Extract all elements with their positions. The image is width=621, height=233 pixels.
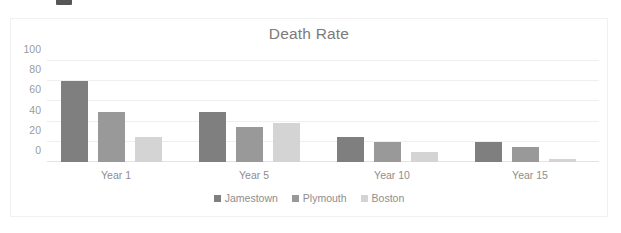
bar-group (461, 61, 599, 162)
legend-swatch-icon (361, 195, 368, 202)
bar[interactable] (475, 142, 502, 162)
x-axis-category-label: Year 5 (185, 169, 323, 181)
chart-title: Death Rate (11, 25, 607, 43)
y-axis-tick-label: 40 (29, 104, 41, 116)
y-axis-tick-label: 80 (29, 63, 41, 75)
bar[interactable] (135, 137, 162, 162)
bar-slot (374, 61, 401, 162)
bar[interactable] (337, 137, 364, 162)
bar-slot (61, 61, 88, 162)
legend-item[interactable]: Boston (361, 192, 405, 204)
bar-slot (411, 61, 438, 162)
x-axis-category-label: Year 1 (47, 169, 185, 181)
bar[interactable] (411, 152, 438, 162)
bar[interactable] (374, 142, 401, 162)
x-axis-category-labels: Year 1Year 5Year 10Year 15 (47, 169, 599, 181)
legend-item[interactable]: Jamestown (214, 192, 278, 204)
y-axis-tick-label: 20 (29, 124, 41, 136)
bar-slot (549, 61, 576, 162)
bar-slot (199, 61, 226, 162)
cut-off-text-artifact (56, 0, 72, 5)
bar[interactable] (273, 123, 300, 162)
bar-slot (98, 61, 125, 162)
legend-swatch-icon (214, 195, 221, 202)
bar-group (323, 61, 461, 162)
chart-container: Death Rate 020406080100 Year 1Year 5Year… (10, 18, 608, 217)
bar[interactable] (61, 81, 88, 162)
x-axis-category-label: Year 10 (323, 169, 461, 181)
bar[interactable] (236, 127, 263, 162)
legend-swatch-icon (292, 195, 299, 202)
bar-slot (475, 61, 502, 162)
y-axis-tick-label: 0 (35, 144, 41, 156)
bar[interactable] (512, 147, 539, 162)
y-axis-tick-label: 60 (29, 83, 41, 95)
bar[interactable] (549, 159, 576, 162)
bar-slot (135, 61, 162, 162)
bar-slot (273, 61, 300, 162)
legend-label: Plymouth (303, 192, 347, 204)
bar-slot (337, 61, 364, 162)
legend-item[interactable]: Plymouth (292, 192, 347, 204)
bar-slot (512, 61, 539, 162)
bar-group (47, 61, 185, 162)
x-axis-category-label: Year 15 (461, 169, 599, 181)
legend-label: Jamestown (225, 192, 278, 204)
bar[interactable] (199, 112, 226, 163)
bars-layer (47, 61, 599, 162)
y-axis-tick-label: 100 (23, 43, 41, 55)
plot-area: 020406080100 (47, 61, 599, 162)
bar-slot (236, 61, 263, 162)
chart-legend: JamestownPlymouthBoston (11, 192, 607, 204)
bar[interactable] (98, 112, 125, 163)
bar-group (185, 61, 323, 162)
legend-label: Boston (372, 192, 405, 204)
